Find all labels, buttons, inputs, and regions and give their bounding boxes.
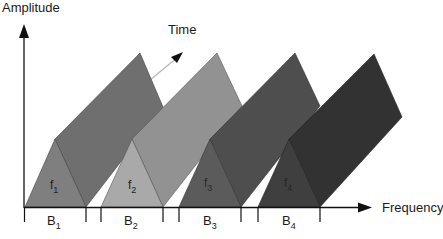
frequency-label: Frequency	[382, 200, 443, 215]
band-label-2: B2	[124, 213, 138, 228]
band-label-1: B1	[47, 213, 61, 228]
time-label: Time	[168, 22, 196, 37]
freq-label-3: f3	[204, 176, 212, 190]
band-ticks	[25, 207, 321, 222]
time-arrow	[150, 52, 183, 80]
amplitude-label: Amplitude	[2, 0, 60, 15]
band-label-4: B4	[282, 213, 296, 228]
amplitude-axis	[19, 24, 29, 208]
freq-label-1: f1	[50, 178, 58, 192]
band-label-3: B3	[203, 213, 217, 228]
freq-label-2: f2	[128, 178, 136, 192]
freq-label-4: f4	[284, 176, 292, 190]
